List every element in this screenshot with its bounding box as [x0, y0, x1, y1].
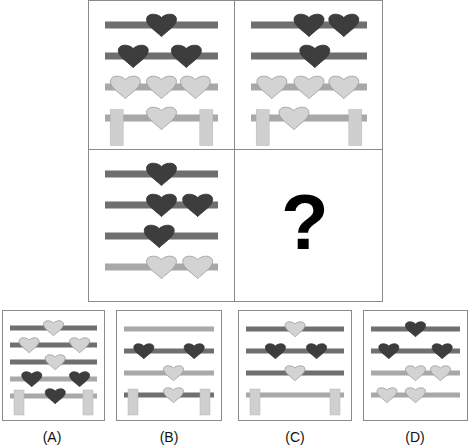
light-heart-icon [147, 107, 177, 130]
right-post [83, 390, 93, 415]
bar-row [105, 45, 218, 68]
left-post [256, 110, 269, 146]
bar-row [251, 14, 367, 37]
grid-cell-r2c2-missing: ? [235, 150, 383, 302]
dark-heart-icon [134, 344, 154, 359]
light-heart-icon [180, 76, 210, 99]
light-heart-icon [285, 322, 305, 337]
light-bar [124, 327, 214, 332]
dark-bar [246, 349, 344, 354]
dark-heart-icon [22, 372, 42, 387]
bar-row [246, 322, 344, 337]
bar-row [124, 327, 214, 332]
light-heart-icon [19, 338, 39, 353]
light-heart-icon [147, 76, 177, 99]
right-post [200, 110, 213, 146]
bar-row [10, 321, 97, 336]
bar-row [10, 372, 97, 387]
option-b[interactable] [116, 310, 222, 421]
dark-heart-icon [45, 389, 65, 404]
bar-row [371, 366, 460, 381]
bar-row [251, 76, 367, 99]
right-post [349, 110, 362, 146]
bar-row [124, 366, 214, 381]
light-heart-icon [164, 366, 184, 381]
bar-row [105, 107, 218, 145]
bar-row [246, 389, 344, 415]
dark-heart-icon [307, 344, 327, 359]
left-post [110, 110, 123, 146]
bar-row [124, 388, 214, 415]
puzzle-grid: ? [88, 0, 383, 302]
bar-row [105, 76, 218, 99]
light-heart-icon [329, 76, 359, 99]
left-post [14, 390, 24, 415]
bar-row [105, 163, 218, 186]
dark-heart-icon [147, 194, 177, 217]
dark-heart-icon [294, 14, 324, 37]
option-b-label: (B) [149, 429, 189, 445]
option-a-label: (A) [32, 429, 72, 445]
bar-row [246, 366, 344, 381]
light-heart-icon [430, 366, 450, 381]
dark-heart-icon [406, 322, 426, 337]
dark-heart-icon [184, 344, 204, 359]
light-heart-icon [279, 107, 309, 130]
option-d-label: (D) [395, 429, 435, 445]
light-heart-icon [406, 388, 426, 403]
figure-drawing [89, 1, 234, 149]
dark-heart-icon [70, 372, 90, 387]
grid-cell-r2c1 [89, 150, 234, 302]
dark-heart-icon [147, 14, 177, 37]
left-post [128, 389, 138, 415]
dark-heart-icon [300, 45, 330, 68]
dark-heart-icon [171, 45, 201, 68]
figure-drawing [235, 1, 383, 149]
light-heart-icon [406, 366, 426, 381]
option-c[interactable] [238, 310, 352, 421]
bar-row [251, 107, 367, 145]
dark-heart-icon [329, 14, 359, 37]
option-a[interactable] [2, 310, 105, 421]
bar-row [10, 338, 97, 353]
bar-row [105, 194, 218, 217]
right-post [330, 389, 340, 415]
dark-heart-icon [265, 344, 285, 359]
grid-cell-r1c1 [89, 1, 234, 149]
bar-row [105, 256, 218, 279]
light-heart-icon [377, 388, 397, 403]
bar-row [371, 344, 460, 359]
bar-row [105, 14, 218, 37]
light-heart-icon [147, 256, 177, 279]
light-heart-icon [164, 388, 184, 403]
dark-heart-icon [432, 344, 452, 359]
light-heart-icon [44, 321, 64, 336]
light-heart-icon [45, 355, 65, 370]
bar-row [105, 225, 218, 248]
bar-row [371, 388, 460, 403]
dark-heart-icon [379, 344, 399, 359]
light-heart-icon [70, 338, 90, 353]
right-post [200, 389, 210, 415]
bar-row [10, 389, 97, 415]
figure-drawing [117, 311, 221, 420]
figure-drawing [364, 311, 467, 420]
bar-row [371, 322, 460, 337]
bar-row [251, 45, 367, 68]
option-d[interactable] [363, 310, 468, 421]
bar-row [124, 344, 214, 359]
dark-heart-icon [147, 163, 177, 186]
figure-drawing [3, 311, 104, 420]
light-heart-icon [285, 366, 305, 381]
light-heart-icon [110, 76, 140, 99]
dark-heart-icon [144, 225, 174, 248]
bar-row [10, 355, 97, 370]
dark-heart-icon [183, 194, 213, 217]
figure-drawing [89, 150, 234, 302]
figure-drawing [239, 311, 351, 420]
option-c-label: (C) [275, 429, 315, 445]
left-post [250, 389, 260, 415]
bar-row [246, 344, 344, 359]
light-heart-icon [183, 256, 213, 279]
grid-cell-r1c2 [235, 1, 383, 149]
